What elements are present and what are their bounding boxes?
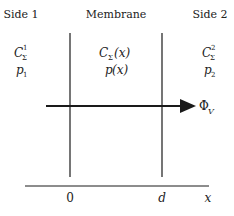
membrane-concentration: C Σ (x)	[99, 46, 130, 62]
svg-text:(x): (x)	[112, 63, 128, 77]
svg-text:Σ: Σ	[22, 54, 27, 62]
svg-text:C: C	[99, 46, 108, 60]
svg-text:Σ: Σ	[210, 54, 215, 62]
membrane-pressure: p (x)	[105, 63, 128, 77]
svg-text:2: 2	[211, 71, 215, 79]
tick-label-d: d	[158, 191, 166, 205]
side2-pressure: p 2	[204, 63, 215, 79]
svg-text:1: 1	[23, 71, 27, 79]
side1-pressure: p 1	[16, 63, 27, 79]
side2-header: Side 2	[192, 8, 227, 21]
tick-label-zero: 0	[66, 191, 74, 205]
flux-label: Φ V	[199, 99, 215, 116]
svg-text:1: 1	[23, 44, 27, 52]
membrane-header: Membrane	[86, 8, 147, 21]
side1-header: Side 1	[3, 8, 38, 21]
svg-text:V: V	[208, 107, 215, 116]
svg-text:(x): (x)	[114, 46, 130, 60]
side2-concentration: C 2 Σ	[202, 44, 215, 62]
x-axis-label: x	[205, 191, 212, 205]
svg-text:Σ: Σ	[108, 54, 113, 62]
svg-text:2: 2	[211, 44, 215, 52]
membrane-diagram: Side 1 Membrane Side 2 C 1 Σ p 1 C Σ (x)…	[0, 0, 234, 216]
flux-arrow	[46, 99, 196, 113]
side1-concentration: C 1 Σ	[14, 44, 27, 62]
arrowhead-icon	[180, 99, 196, 113]
